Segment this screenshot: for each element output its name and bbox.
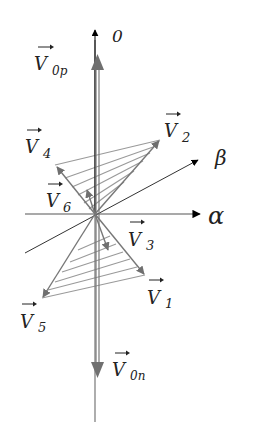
label-v4: V 4 (25, 128, 51, 162)
svg-text:1: 1 (165, 296, 173, 311)
svg-text:V: V (128, 229, 143, 250)
svg-text:V: V (112, 359, 127, 380)
svg-text:6: 6 (63, 200, 71, 215)
svg-text:5: 5 (38, 320, 46, 335)
zero-axis-label: 0 (112, 26, 123, 46)
label-v6: V 6 (46, 182, 71, 216)
label-v0n: V 0n (112, 351, 145, 384)
label-v2: V 2 (164, 112, 190, 146)
svg-text:V: V (34, 53, 49, 74)
label-v1: V 1 (147, 278, 173, 312)
space-vector-diagram: 0 α β V 0p V 2 V 4 V 6 V 3 V 1 V 5 (0, 0, 253, 433)
svg-text:0p: 0p (52, 64, 68, 78)
label-v3: V 3 (128, 220, 154, 254)
beta-axis-label: β (214, 146, 227, 170)
svg-text:V: V (46, 190, 61, 211)
alpha-axis-label: α (208, 202, 224, 230)
svg-text:4: 4 (42, 146, 51, 161)
label-v0p: V 0p (34, 45, 68, 79)
upper-hatched-region (55, 140, 160, 209)
label-v5: V 5 (20, 302, 46, 336)
svg-text:V: V (25, 136, 40, 157)
vector-v3 (95, 214, 108, 250)
svg-text:V: V (147, 287, 162, 308)
svg-text:3: 3 (146, 238, 154, 253)
vector-v2 (95, 141, 159, 214)
svg-text:V: V (164, 120, 179, 141)
svg-text:0n: 0n (130, 369, 145, 383)
svg-text:2: 2 (181, 130, 190, 145)
vector-v6 (87, 190, 95, 214)
vector-v0n (91, 214, 104, 378)
svg-text:V: V (20, 311, 35, 332)
vector-v0p (91, 54, 104, 214)
